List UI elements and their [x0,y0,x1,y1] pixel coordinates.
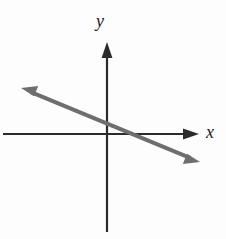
x-axis [3,129,199,140]
y-axis-arrowhead-icon [102,42,113,58]
line-segment [31,92,190,158]
plotted-line-series [21,86,200,164]
x-axis-arrowhead-icon [183,129,199,140]
graph-canvas [0,0,226,239]
y-axis-label: y [96,12,104,30]
coordinate-plane-figure: y x [0,0,226,239]
x-axis-label: x [206,123,214,141]
y-axis [102,42,113,232]
